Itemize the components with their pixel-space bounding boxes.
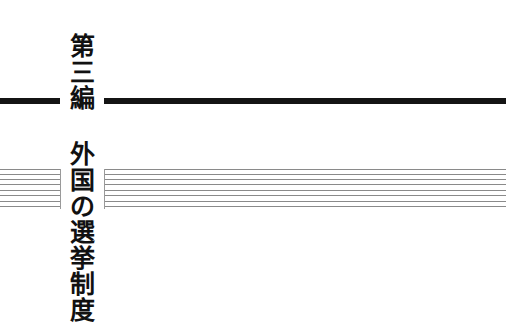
- title-char: 度: [66, 298, 98, 324]
- title-char: の: [66, 194, 98, 220]
- part-title: 外 国 の 選 挙 制 度: [66, 142, 98, 324]
- thick-rule-right: [104, 98, 506, 104]
- title-char: 挙: [66, 246, 98, 272]
- thin-rules-left: [0, 169, 61, 209]
- part-char: 編: [66, 86, 98, 112]
- thick-rule-left: [0, 98, 60, 104]
- part-label: 第 三 編: [66, 34, 98, 112]
- title-char: 国: [66, 168, 98, 194]
- thin-rules-right: [104, 169, 506, 209]
- title-char: 選: [66, 220, 98, 246]
- part-char: 第: [66, 34, 98, 60]
- title-char: 制: [66, 272, 98, 298]
- part-char: 三: [66, 60, 98, 86]
- title-char: 外: [66, 142, 98, 168]
